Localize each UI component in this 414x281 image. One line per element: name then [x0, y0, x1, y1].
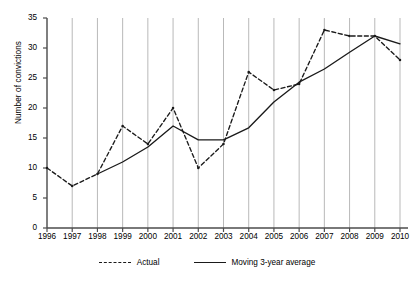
data-point-marker — [172, 107, 175, 110]
data-point-marker — [121, 125, 124, 128]
legend-item-actual: Actual — [99, 258, 160, 267]
legend-item-moving-average: Moving 3-year average — [194, 258, 316, 267]
legend-label-moving-average: Moving 3-year average — [232, 258, 316, 267]
data-point-marker — [247, 71, 250, 74]
legend-label-actual: Actual — [137, 258, 160, 267]
convictions-line-chart: Number of convictions 05101520253035 199… — [0, 0, 414, 281]
chart-legend: Actual Moving 3-year average — [0, 258, 414, 267]
data-point-marker — [273, 89, 276, 92]
data-point-marker — [197, 167, 200, 170]
plot-area — [0, 0, 414, 281]
data-point-marker — [222, 143, 225, 146]
solid-line-swatch-icon — [194, 262, 226, 263]
data-point-marker — [399, 59, 402, 62]
data-point-marker — [46, 167, 49, 170]
data-point-marker — [348, 35, 351, 38]
data-point-marker — [323, 29, 326, 32]
dashed-line-swatch-icon — [99, 262, 131, 263]
data-point-marker — [71, 185, 74, 188]
data-point-marker — [147, 143, 150, 146]
